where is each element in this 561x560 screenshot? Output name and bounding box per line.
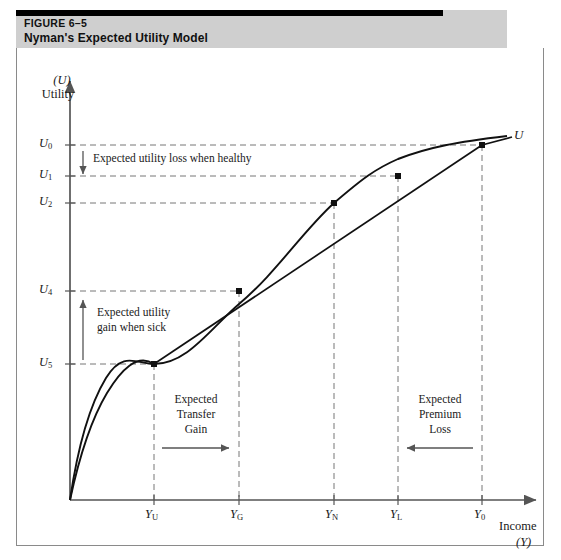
header-rule [16, 10, 443, 16]
x-tick-yn: YN [325, 508, 338, 522]
annotation-transfer-gain-line1: Expected [156, 393, 236, 405]
x-tick-yl: YL [390, 508, 402, 522]
annotation-premium-loss-line1: Expected [400, 393, 480, 405]
point-yn-u2 [331, 200, 337, 206]
y-axis-symbol: (U) [34, 74, 90, 87]
y-tick-u5: U5 [39, 356, 52, 370]
y-tick-u0: U0 [39, 137, 52, 151]
point-yg-u4 [236, 288, 242, 294]
annotation-utility-gain-line2: gain when sick [97, 321, 166, 333]
figure-title: Nyman's Expected Utility Model [24, 31, 208, 45]
figure-number: FIGURE 6–5 [24, 17, 87, 29]
annotation-utility-gain-line1: Expected utility [97, 306, 170, 318]
x-tick-y0: Y0 [474, 508, 485, 522]
x-tick-yu: YU [145, 508, 158, 522]
point-y0-u0 [479, 142, 485, 148]
plot-frame: (U) Utility U0 U1 U2 U4 U5 YU YG YN YL [16, 48, 544, 546]
axis-lines [70, 81, 536, 500]
chart-canvas [17, 48, 545, 546]
annotation-utility-loss: Expected utility loss when healthy [93, 152, 251, 164]
x-tick-yg: YG [230, 508, 243, 522]
x-axis-symbol: (Y) [516, 536, 531, 549]
figure-container: FIGURE 6–5 Nyman's Expected Utility Mode… [16, 10, 545, 547]
point-yu-u5 [151, 361, 157, 367]
figure-header: FIGURE 6–5 Nyman's Expected Utility Mode… [16, 10, 507, 48]
y-tick-u2: U2 [39, 195, 52, 209]
annotation-transfer-gain-line2: Transfer [156, 408, 236, 420]
point-yl-u1 [395, 173, 401, 179]
utility-curve-lower [70, 361, 154, 500]
curve-label-u: U [514, 128, 523, 142]
annotation-premium-loss-line2: Premium [400, 408, 480, 420]
annotation-premium-loss-line3: Loss [400, 423, 480, 435]
annotation-transfer-gain-line3: Gain [156, 423, 236, 435]
vertical-guide-lines [154, 145, 482, 500]
y-tick-u1: U1 [39, 168, 52, 182]
expected-utility-chord [154, 145, 482, 364]
y-axis-label: Utility [30, 88, 86, 101]
y-tick-u4: U4 [39, 283, 52, 297]
x-axis-label: Income [499, 520, 536, 533]
